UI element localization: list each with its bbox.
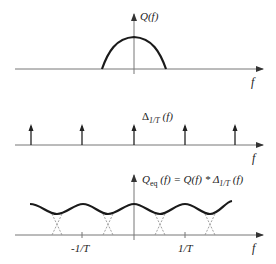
overlap-x xyxy=(103,214,113,235)
impulse-arrowhead xyxy=(29,124,34,131)
overlap-x xyxy=(52,214,62,235)
q-eq-label: Qeq (f) = Q(f) * Δ1/T (f) xyxy=(142,173,244,188)
q-label: Q(f) xyxy=(140,10,159,23)
impulse-arrowhead xyxy=(183,124,188,131)
impulse-arrowhead xyxy=(80,124,85,131)
impulse-arrowhead xyxy=(132,124,137,131)
q-eq-periodic-curve xyxy=(30,201,232,214)
tick-label-minus-1-over-t: -1/T xyxy=(71,242,90,254)
tick-label-1-over-t: 1/T xyxy=(178,242,194,254)
bottom-f-label: f xyxy=(252,241,257,255)
overlap-x xyxy=(155,214,165,235)
mid-f-label: f xyxy=(252,151,257,165)
panel-q-eq: Qeq (f) = Q(f) * Δ1/T (f) -1/T 1/T f xyxy=(15,173,263,255)
delta-label: Δ1/T (f) xyxy=(142,110,173,125)
panel-impulse-train: Δ1/T (f) f xyxy=(15,110,263,165)
overlap-x xyxy=(205,214,215,235)
diagram-canvas: Q(f) f Δ1/T (f) f xyxy=(0,0,276,264)
impulse-arrowhead xyxy=(233,124,238,131)
top-f-label: f xyxy=(251,75,256,89)
panel-q-spectrum: Q(f) f xyxy=(15,10,263,89)
